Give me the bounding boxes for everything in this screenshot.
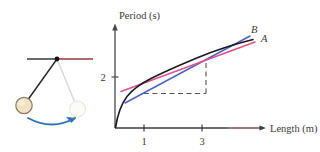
pendulum-string <box>27 59 57 101</box>
pendulum-diagram <box>16 57 93 125</box>
pendulum-bob-ghost <box>70 101 86 117</box>
curve-label-B: B <box>251 24 258 35</box>
x-tick-label-1: 1 <box>141 136 146 147</box>
y-axis-arrowhead <box>112 24 118 31</box>
pendulum-bob-highlight <box>18 100 24 106</box>
figure-canvas: Period (s) Length (m) 2 1 3 B A <box>0 0 320 152</box>
pendulum-period-figure: Period (s) Length (m) 2 1 3 B A <box>0 0 320 152</box>
period-curve <box>116 40 254 128</box>
x-axis-arrowhead <box>260 125 267 130</box>
period-length-graph: Period (s) Length (m) 2 1 3 B A <box>100 10 318 147</box>
y-axis-label: Period (s) <box>119 10 161 22</box>
pivot-point <box>55 57 60 62</box>
x-axis-label: Length (m) <box>270 123 318 135</box>
pendulum-string-ghost <box>57 59 76 105</box>
pendulum-bob <box>16 97 32 113</box>
x-tick-label-3: 3 <box>199 136 204 147</box>
curve-label-A: A <box>260 33 268 44</box>
y-tick-label-2: 2 <box>100 72 105 83</box>
